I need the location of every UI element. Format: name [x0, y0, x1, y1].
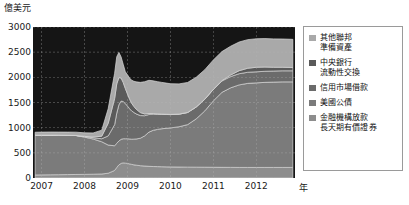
y-tick-label: 2000 [1, 72, 31, 82]
x-tick-label: 2008 [73, 181, 96, 191]
plot-area [33, 27, 295, 178]
legend-label: 金融機構放款 長天期有價證券 [320, 113, 377, 133]
y-tick-label: 1500 [1, 98, 31, 108]
y-axis-unit-label: 億美元 [4, 1, 32, 14]
legend-item-credit-market-borrowing[interactable]: 信用市場借款 [309, 83, 399, 93]
x-tick-label: 2010 [159, 181, 182, 191]
legend-label: 其他聯邦 準備資產 [320, 33, 352, 53]
chart-figure: 億美元 300025002000150010005000 20072008200… [0, 0, 409, 205]
x-tick-label: 2012 [245, 181, 268, 191]
x-tick-label: 2009 [116, 181, 139, 191]
y-tick-label: 2500 [1, 47, 31, 57]
legend-label: 中央銀行 流動性交換 [320, 58, 361, 78]
legend-item-central-bank-liquidity-swaps[interactable]: 中央銀行 流動性交換 [309, 58, 399, 78]
legend-swatch-icon [309, 100, 316, 106]
legend-item-financial-institution-loans-long-term-securities[interactable]: 金融機構放款 長天期有價證券 [309, 113, 399, 133]
y-tick-label: 1000 [1, 123, 31, 133]
x-tick-label: 2007 [30, 181, 53, 191]
y-tick-label: 500 [1, 148, 31, 158]
y-axis-tick-labels: 300025002000150010005000 [0, 27, 31, 178]
x-axis-tick-labels: 200720082009201020112012 [33, 181, 295, 197]
x-axis-unit-label: 年 [299, 181, 308, 194]
legend-swatch-icon [309, 60, 316, 66]
chart-legend: 其他聯邦 準備資產中央銀行 流動性交換信用市場借款美國公債金融機構放款 長天期有… [303, 26, 403, 171]
legend-item-us-treasury-securities[interactable]: 美國公債 [309, 98, 399, 108]
legend-swatch-icon [309, 115, 316, 121]
legend-swatch-icon [309, 35, 316, 41]
y-tick-label: 0 [1, 173, 31, 183]
legend-label: 信用市場借款 [320, 83, 369, 93]
x-tick-label: 2011 [202, 181, 225, 191]
legend-label: 美國公債 [320, 98, 352, 108]
stacked-area-plot [33, 27, 295, 178]
y-tick-label: 3000 [1, 22, 31, 32]
legend-item-other-federal-reserve-assets[interactable]: 其他聯邦 準備資產 [309, 33, 399, 53]
legend-swatch-icon [309, 85, 316, 91]
